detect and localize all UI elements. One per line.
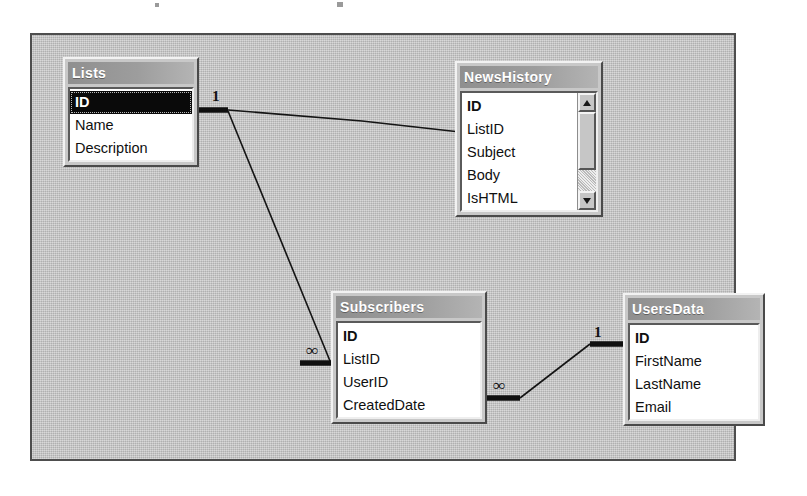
field-row[interactable]: ListID — [462, 118, 577, 141]
table-title-usersdata[interactable]: UsersData — [628, 298, 760, 320]
field-list-wrapper-newshistory: ID ListID Subject Body IsHTML — [460, 91, 598, 212]
scroll-up-arrow-icon[interactable] — [578, 93, 596, 112]
field-row[interactable]: Body — [462, 164, 577, 187]
cardinality-many-label: ∞ — [493, 376, 505, 395]
scan-speck — [337, 2, 343, 7]
table-box-usersdata[interactable]: UsersData ID FirstName LastName Email — [623, 293, 765, 426]
field-list-usersdata: ID FirstName LastName Email — [630, 325, 758, 419]
field-list-lists: ID Name Description — [70, 89, 192, 160]
table-box-subscribers[interactable]: Subscribers ID ListID UserID CreatedDate — [331, 291, 487, 424]
field-row[interactable]: IsHTML — [462, 187, 577, 210]
relationship-line — [228, 111, 330, 361]
field-row[interactable]: CreatedDate — [338, 394, 480, 417]
table-title-lists[interactable]: Lists — [68, 62, 194, 84]
field-row[interactable]: Name — [70, 114, 192, 137]
table-box-newshistory[interactable]: NewsHistory ID ListID Subject Body IsHTM… — [455, 61, 603, 217]
scrollbar-thumb[interactable] — [578, 112, 596, 170]
table-title-newshistory[interactable]: NewsHistory — [460, 66, 598, 88]
scan-artifacts — [0, 0, 807, 30]
field-row[interactable]: LastName — [630, 373, 758, 396]
table-box-lists[interactable]: Lists ID Name Description — [63, 57, 199, 167]
field-row[interactable]: ID — [462, 95, 577, 118]
field-row[interactable]: ListID — [338, 348, 480, 371]
relationship-line — [520, 344, 590, 398]
field-list-wrapper-usersdata: ID FirstName LastName Email — [628, 323, 760, 421]
vertical-scrollbar[interactable] — [577, 93, 596, 210]
field-row[interactable]: FirstName — [630, 350, 758, 373]
field-row[interactable]: Email — [630, 396, 758, 419]
relationships-canvas[interactable]: 1 ∞ ∞ ∞ 1 Lists ID Name Description — [30, 33, 736, 461]
field-row[interactable]: Description — [70, 137, 192, 160]
relationship-line — [228, 110, 469, 133]
field-row[interactable]: UserID — [338, 371, 480, 394]
scroll-down-arrow-icon[interactable] — [578, 191, 596, 210]
relationship-lists-subscribers[interactable]: ∞ — [228, 111, 332, 363]
triangle-up-icon — [583, 100, 591, 106]
scan-speck — [155, 3, 159, 7]
field-row[interactable]: ID — [630, 327, 758, 350]
field-list-wrapper-lists: ID Name Description — [68, 87, 194, 162]
triangle-down-icon — [583, 198, 591, 204]
field-list-newshistory: ID ListID Subject Body IsHTML — [462, 93, 577, 210]
scrollbar-track[interactable] — [578, 112, 596, 191]
relationship-subscribers-usersdata[interactable]: ∞ 1 — [487, 324, 624, 398]
cardinality-one-label: 1 — [212, 88, 220, 104]
field-row[interactable]: ID — [338, 325, 480, 348]
table-title-subscribers[interactable]: Subscribers — [336, 296, 482, 318]
cardinality-many-label: ∞ — [306, 341, 318, 360]
field-row[interactable]: ID — [70, 91, 192, 114]
field-list-subscribers: ID ListID UserID CreatedDate — [338, 323, 480, 417]
cardinality-one-label: 1 — [594, 324, 602, 340]
field-row[interactable]: Subject — [462, 141, 577, 164]
field-list-wrapper-subscribers: ID ListID UserID CreatedDate — [336, 321, 482, 419]
